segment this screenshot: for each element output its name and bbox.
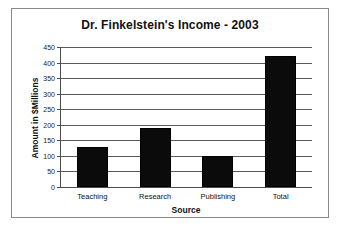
y-tick-mark: [57, 156, 61, 157]
y-tick-mark: [57, 94, 61, 95]
y-tick-mark: [57, 47, 61, 48]
y-tick-label: 0: [51, 184, 55, 191]
y-tick-label: 350: [43, 75, 55, 82]
plot-area: 050100150200250300350400450 TeachingRese…: [60, 47, 312, 188]
y-tick-label: 450: [43, 44, 55, 51]
chart-frame: Dr. Finkelstein's Income - 2003 Amount i…: [11, 8, 329, 218]
y-tick-label: 150: [43, 137, 55, 144]
x-category-label: Research: [139, 192, 171, 201]
y-tick-label: 100: [43, 152, 55, 159]
y-tick-mark: [57, 125, 61, 126]
y-axis-title-label: Amount in $Millions: [30, 77, 40, 158]
y-tick-label: 400: [43, 59, 55, 66]
y-axis-title: Amount in $Millions: [28, 47, 42, 188]
y-tick-mark: [57, 78, 61, 79]
bar: [140, 128, 171, 187]
x-category-label: Total: [273, 192, 289, 201]
bar: [202, 156, 233, 187]
y-tick-label: 200: [43, 121, 55, 128]
bar: [77, 147, 108, 187]
y-tick-label: 300: [43, 90, 55, 97]
y-tick-mark: [57, 63, 61, 64]
y-tick-label: 250: [43, 106, 55, 113]
gridline: [61, 47, 312, 48]
y-tick-mark: [57, 171, 61, 172]
y-tick-mark: [57, 140, 61, 141]
x-category-label: Publishing: [201, 192, 236, 201]
chart-title: Dr. Finkelstein's Income - 2003: [12, 18, 328, 32]
y-tick-mark: [57, 187, 61, 188]
x-axis-title: Source: [60, 205, 312, 215]
x-category-label: Teaching: [77, 192, 107, 201]
y-tick-mark: [57, 109, 61, 110]
bar: [265, 56, 296, 187]
y-tick-label: 50: [47, 168, 55, 175]
